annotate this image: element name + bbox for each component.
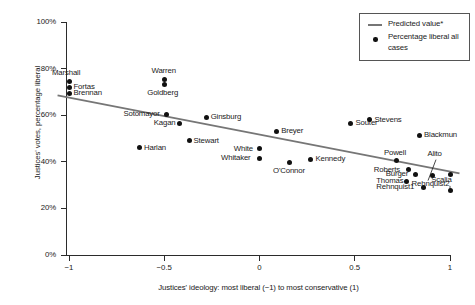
data-point xyxy=(177,121,182,126)
data-point-label: Kennedy xyxy=(315,154,345,163)
data-point-label: Stevens xyxy=(374,115,401,124)
data-point-label: Whitaker xyxy=(221,153,251,162)
data-point-label: Blackmun xyxy=(424,130,457,139)
legend-line-swatch-icon xyxy=(368,24,382,26)
data-point-label: Brennan xyxy=(74,88,102,97)
data-point-label: White xyxy=(234,144,253,153)
data-point-label: Warren xyxy=(152,66,176,75)
data-point xyxy=(417,133,422,138)
data-point-label: Breyer xyxy=(281,126,303,135)
legend-label-predicted-value: Predicted value* xyxy=(388,19,443,28)
data-point-label: Scalia xyxy=(431,175,451,184)
data-point-label: Harlan xyxy=(144,143,166,152)
data-point-label: Ginsburg xyxy=(211,112,241,121)
data-point-label: O'Connor xyxy=(273,166,305,175)
legend-label-percentage-liberal: Percentage liberal all cases xyxy=(388,32,466,53)
data-point-label: Goldberg xyxy=(147,88,178,97)
data-point xyxy=(67,91,72,96)
data-point-label: Kagan xyxy=(154,118,176,127)
legend-dot-swatch-icon xyxy=(373,37,378,42)
data-point xyxy=(204,115,209,120)
scatter-plot-figure: Justices' votes, percentage liberal Just… xyxy=(0,0,475,305)
data-point xyxy=(257,156,262,161)
data-point-label: Alito xyxy=(427,149,441,158)
chart-legend: Predicted value* Percentage liberal all … xyxy=(359,13,470,61)
data-point-label: Powell xyxy=(384,148,406,157)
data-point xyxy=(67,85,72,90)
data-point xyxy=(67,79,72,84)
data-point xyxy=(162,77,167,82)
data-point-label: Sotomayor xyxy=(123,109,159,118)
data-point-label: Marshall xyxy=(52,68,80,77)
data-point-label: Stewart xyxy=(194,136,219,145)
data-point xyxy=(164,112,169,117)
data-point-label: Rehnquist1 xyxy=(376,182,414,191)
data-point xyxy=(187,138,192,143)
predicted-value-trend-line xyxy=(58,95,460,173)
